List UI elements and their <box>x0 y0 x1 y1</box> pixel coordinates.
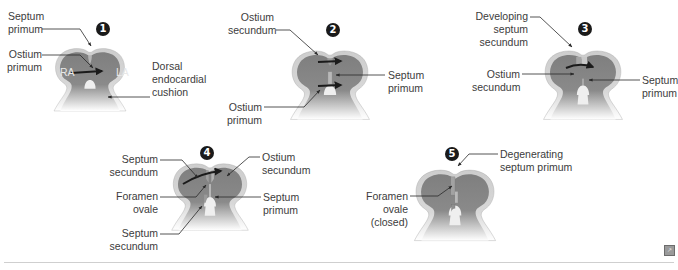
label-developing-septum-secundum: Developing septum secundum <box>470 10 528 49</box>
label-dorsal-endocardial-cushion: Dorsal endocardial cushion <box>152 60 206 99</box>
label-foramen-ovale-closed: Foramen ovale (closed) <box>360 190 408 229</box>
label-septum-primum-4: Septum primum <box>263 191 299 217</box>
panel-1-heart <box>54 49 126 111</box>
label-ostium-secundum-2: Ostium secundum <box>228 11 274 37</box>
label-septum-secundum-top-4: Septum secundum <box>100 153 158 179</box>
label-septum-secundum-bottom-4: Septum secundum <box>100 227 158 253</box>
label-degenerating-septum-primum: Degenerating septum primum <box>500 148 572 174</box>
label-left-atrium: LA <box>116 66 129 79</box>
step-badge-1: 1 <box>96 22 110 36</box>
label-right-atrium: RA <box>60 66 75 79</box>
panel-5-heart <box>414 170 495 240</box>
step-badge-4: 4 <box>200 146 214 160</box>
label-ostium-primum-1: Ostium primum <box>6 48 42 74</box>
label-septum-primum-1: Septum primum <box>8 10 42 36</box>
step-badge-2: 2 <box>326 23 340 37</box>
bottom-divider <box>4 262 674 263</box>
label-ostium-secundum-3: Ostium secundum <box>472 68 520 94</box>
label-foramen-ovale-4: Foramen ovale <box>100 190 158 216</box>
expand-figure-icon[interactable]: ↗ <box>664 245 675 256</box>
label-septum-primum-2: Septum primum <box>388 69 424 95</box>
step-badge-3: 3 <box>578 22 592 36</box>
step-badge-5: 5 <box>445 147 459 161</box>
label-ostium-secundum-4: Ostium secundum <box>262 151 310 177</box>
label-septum-primum-3: Septum primum <box>642 74 678 100</box>
label-ostium-primum-2: Ostium primum <box>224 101 262 127</box>
heart-septation-diagram: 1 2 3 4 5 Septum primum Ostium primum RA… <box>0 0 678 270</box>
panel-3-heart <box>544 51 623 119</box>
